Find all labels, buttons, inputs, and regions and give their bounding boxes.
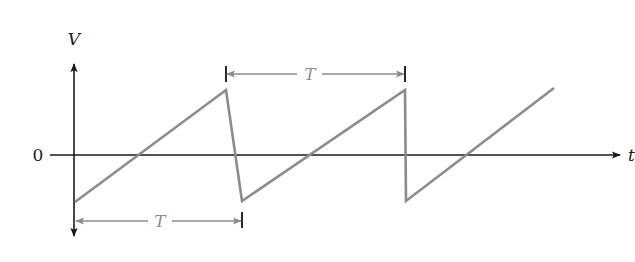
- y-axis-label: V: [68, 29, 82, 49]
- period-dimension-top: T: [226, 64, 405, 84]
- origin-label: 0: [33, 145, 44, 165]
- sawtooth-waveform: [75, 88, 554, 202]
- x-axis-label: t: [628, 145, 635, 165]
- period-dimension-bottom: T: [76, 211, 242, 231]
- period-label-bottom: T: [154, 211, 167, 231]
- period-label-top: T: [304, 64, 317, 84]
- sawtooth-diagram: V t 0 T T: [0, 0, 635, 262]
